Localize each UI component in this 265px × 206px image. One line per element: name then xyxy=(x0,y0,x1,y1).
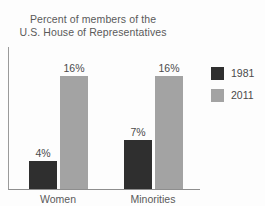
legend-item-1981[interactable]: 1981 xyxy=(211,64,254,82)
legend-label-1981: 1981 xyxy=(231,67,254,79)
bar-chart-figure: Percent of members of the U.S. House of … xyxy=(0,0,265,206)
plot-area: 4% 16% 7% 16% xyxy=(8,47,200,189)
chart-title-line-1: Percent of members of the xyxy=(0,13,186,26)
legend-swatch-2011-icon xyxy=(211,89,224,102)
legend-swatch-1981-icon xyxy=(211,67,224,80)
bar-value-women-2011: 16% xyxy=(54,62,94,74)
bar-value-women-1981: 4% xyxy=(23,147,63,159)
bar-minorities-2011[interactable] xyxy=(155,76,183,189)
bar-value-minorities-1981: 7% xyxy=(118,126,158,138)
bar-value-minorities-2011: 16% xyxy=(149,62,189,74)
x-axis-label-minorities: Minorities xyxy=(113,193,193,205)
chart-title: Percent of members of the U.S. House of … xyxy=(0,13,186,39)
legend-label-2011: 2011 xyxy=(231,89,254,101)
legend-item-2011[interactable]: 2011 xyxy=(211,86,254,104)
chart-title-line-2: U.S. House of Representatives xyxy=(0,26,186,39)
bar-women-2011[interactable] xyxy=(60,76,88,189)
chart-legend: 1981 2011 xyxy=(211,64,254,108)
x-axis-label-women: Women xyxy=(18,193,98,205)
bar-minorities-1981[interactable] xyxy=(124,140,152,189)
bar-women-1981[interactable] xyxy=(29,161,57,189)
